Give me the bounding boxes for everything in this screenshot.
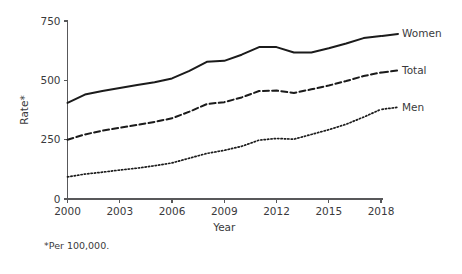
y-tick-label: 0: [54, 193, 61, 205]
chart-figure: 0250500750 2000200320062009201220152018 …: [0, 0, 462, 274]
x-axis: 2000200320062009201220152018: [54, 199, 394, 217]
x-tick-label: 2009: [211, 205, 238, 217]
y-tick-label: 250: [40, 133, 60, 145]
x-tick-label: 2000: [54, 205, 81, 217]
legend-label-women: Women: [402, 27, 442, 39]
y-axis-title: Rate*: [18, 95, 30, 124]
x-tick-label: 2006: [159, 205, 186, 217]
x-tick-label: 2015: [315, 205, 342, 217]
series-group: [68, 36, 382, 177]
legend-label-total: Total: [401, 64, 427, 76]
y-tick-label: 500: [40, 74, 60, 86]
y-tick-label: 750: [40, 15, 60, 27]
legend-swatch-men: [382, 107, 398, 109]
legend-swatch-total: [382, 71, 398, 73]
series-line-women: [68, 36, 382, 103]
x-axis-title: Year: [212, 221, 236, 233]
x-tick-group: 2000200320062009201220152018: [54, 199, 394, 217]
y-tick-group: 0250500750: [40, 15, 67, 205]
series-line-men: [68, 109, 382, 177]
y-axis: 0250500750: [40, 15, 67, 205]
legend-swatch-women: [382, 34, 398, 36]
x-tick-label: 2003: [106, 205, 133, 217]
footnote: *Per 100,000.: [44, 240, 109, 251]
x-tick-label: 2018: [368, 205, 395, 217]
chart-legend: WomenTotalMen: [382, 27, 442, 112]
line-chart: 0250500750 2000200320062009201220152018 …: [0, 0, 462, 274]
series-line-total: [68, 73, 382, 140]
x-tick-label: 2012: [263, 205, 290, 217]
legend-label-men: Men: [402, 101, 424, 113]
